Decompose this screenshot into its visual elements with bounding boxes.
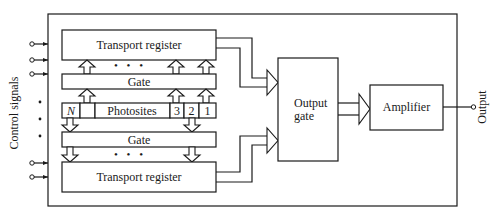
control-ellipsis	[39, 101, 42, 138]
output-gate-label-line1: Output	[294, 96, 328, 110]
ellipsis-upper: • • •	[114, 59, 146, 71]
top-gate-label: Gate	[128, 75, 151, 89]
control-inputs-top	[30, 42, 48, 76]
amplifier-label: Amplifier	[383, 100, 430, 114]
photosite-3-label: 3	[174, 104, 180, 118]
control-signals-label: Control signals	[7, 76, 21, 149]
bottom-transport-register-label: Transport register	[96, 170, 181, 184]
input-terminal-icon	[30, 161, 34, 165]
photosite-n-label: N	[66, 104, 76, 118]
top-transport-register-label: Transport register	[96, 38, 181, 52]
photosite-cell-blank	[80, 103, 95, 118]
control-inputs-bottom	[30, 161, 48, 179]
ellipsis-lower: • • •	[114, 148, 146, 160]
photosites-array: N Photosites 3 2 1	[62, 103, 216, 118]
bottom-gate-label: Gate	[128, 133, 151, 147]
input-terminal-icon	[30, 42, 34, 46]
ccd-block-diagram: Control signals Transport register • • •…	[0, 0, 500, 221]
input-terminal-icon	[30, 72, 34, 76]
photosite-1-label: 1	[205, 104, 211, 118]
photosites-label: Photosites	[107, 104, 157, 118]
photosite-2-label: 2	[189, 104, 195, 118]
output-gate-label-line2: gate	[294, 109, 314, 123]
input-terminal-icon	[30, 175, 34, 179]
output-label: Output	[475, 90, 489, 124]
input-terminal-icon	[30, 58, 34, 62]
